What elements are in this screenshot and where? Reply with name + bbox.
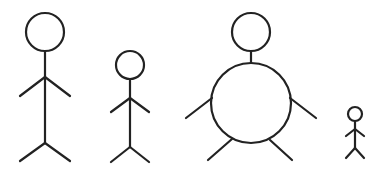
right-leg <box>130 147 149 162</box>
left-leg <box>20 143 45 161</box>
left-leg <box>346 148 355 158</box>
head <box>348 107 362 121</box>
right-leg <box>355 148 364 158</box>
torso <box>211 63 291 143</box>
stick-figures-diagram <box>0 0 381 172</box>
head <box>116 51 144 79</box>
round-figure <box>186 13 316 160</box>
left-leg <box>111 147 130 162</box>
head <box>26 13 64 51</box>
medium-figure <box>111 51 149 162</box>
right-arm <box>130 98 149 112</box>
left-arm <box>346 129 355 136</box>
left-leg <box>208 139 232 160</box>
right-leg <box>45 143 70 161</box>
tall-figure <box>20 13 70 161</box>
right-arm <box>290 98 316 118</box>
right-arm <box>45 77 70 96</box>
left-arm <box>20 77 45 96</box>
left-arm <box>111 98 130 112</box>
left-arm <box>186 98 212 118</box>
head <box>232 13 270 51</box>
small-figure <box>346 107 364 158</box>
right-arm <box>355 129 364 136</box>
right-leg <box>270 140 292 160</box>
